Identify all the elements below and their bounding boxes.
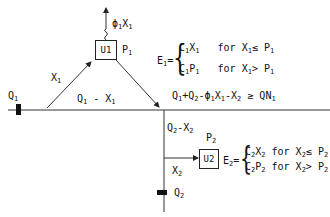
q2-label: Q2 (174, 188, 184, 201)
flow-constraint-label: Q1+Q2-ϕ1X1-X2 ≥ QN1 (172, 91, 276, 104)
q2-inflow-block (157, 190, 167, 195)
loss-label: ϕ1X1 (112, 19, 133, 32)
u1-return-arrow (116, 60, 159, 107)
q2-minus-x2-label: Q2-X2 (167, 123, 194, 136)
user-u2-node: U2 (199, 149, 219, 169)
u2-label: U2 (204, 154, 215, 164)
e1-lhs: E1= (157, 56, 173, 69)
e2-lhs: E2= (223, 156, 239, 169)
e1-case1: C1X1 for X1≤ P1 (179, 43, 274, 56)
q1-minus-x1-label: Q1 - X1 (77, 94, 116, 107)
user-u1-node: U1 (95, 40, 117, 60)
p1-label: P1 (122, 45, 132, 58)
q1-inflow-block (16, 104, 21, 115)
loss-squiggle (105, 29, 108, 40)
diagram-lines (0, 0, 330, 217)
x1-label: X1 (51, 73, 61, 86)
p2-label: P2 (206, 133, 216, 146)
e2-case1: C2X2 for X2≤ P2 (245, 147, 328, 160)
u1-label: U1 (101, 45, 112, 55)
e2-case2: C2P2 for X2> P2 (245, 162, 328, 175)
q1-label: Q1 (8, 91, 18, 104)
e1-case2: C1P1 for X1> P1 (179, 64, 274, 77)
x2-label: X2 (172, 166, 182, 179)
